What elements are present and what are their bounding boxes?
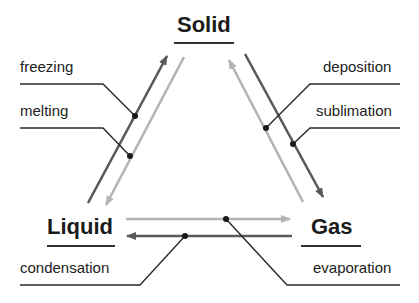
label-sublimation: sublimation: [316, 103, 392, 118]
melting-arrow: [106, 57, 184, 205]
arrows-and-leaders: [0, 0, 419, 303]
solid-underline: [174, 42, 234, 44]
label-melting: melting: [20, 103, 68, 118]
freezing-arrow: [88, 56, 167, 203]
liquid-underline: [47, 245, 115, 247]
label-evaporation: evaporation: [313, 260, 391, 275]
label-condensation: condensation: [20, 260, 109, 275]
state-liquid: Liquid: [47, 216, 113, 238]
melting-leader: [20, 128, 130, 156]
sublimation-leader: [293, 128, 400, 144]
gas-underline: [301, 245, 361, 247]
state-solid: Solid: [177, 14, 231, 36]
state-gas: Gas: [311, 216, 353, 238]
sublimation-arrow: [245, 54, 323, 197]
label-freezing: freezing: [20, 59, 73, 74]
label-deposition: deposition: [323, 59, 391, 74]
phase-diagram: Solid Liquid Gas freezing melting deposi…: [0, 0, 419, 303]
